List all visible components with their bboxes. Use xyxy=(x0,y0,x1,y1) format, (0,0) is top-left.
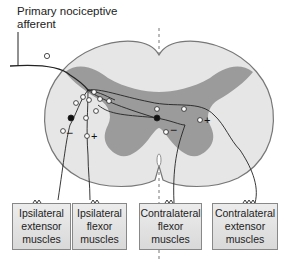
box-ipsilateral-extensor: Ipsilateralextensormuscles xyxy=(12,203,71,250)
primary-afferent-label: Primary nociceptive afferent xyxy=(17,5,117,31)
box-line: muscles xyxy=(77,233,122,246)
box-line: muscles xyxy=(215,233,275,246)
box-line: flexor xyxy=(77,220,122,233)
title-line2: afferent xyxy=(17,18,56,30)
minus-sign-contra-flexor: − xyxy=(170,123,177,137)
box-line: Ipsilateral xyxy=(19,207,64,220)
title-line1: Primary nociceptive xyxy=(17,5,117,17)
plus-sign-ipsi-flexor: + xyxy=(91,130,97,142)
box-line: flexor xyxy=(140,220,200,233)
box-line: extensor xyxy=(215,220,275,233)
box-line: muscles xyxy=(19,233,64,246)
box-ipsilateral-flexor: Ipsilateralflexormuscles xyxy=(72,203,127,250)
box-line: Contralateral xyxy=(215,207,275,220)
box-line: extensor xyxy=(19,220,64,233)
central-canal xyxy=(157,154,161,166)
box-line: muscles xyxy=(140,233,200,246)
box-contralateral-flexor: Contralateralflexormuscles xyxy=(139,203,202,250)
box-line: Ipsilateral xyxy=(77,207,122,220)
afferent-ganglion xyxy=(44,53,49,58)
box-line: Contralateral xyxy=(140,207,200,220)
box-contralateral-extensor: Contralateralextensormuscles xyxy=(212,203,278,250)
minus-sign-ipsi-extensor: − xyxy=(66,126,73,140)
plus-sign-contra-extensor: + xyxy=(204,114,210,126)
